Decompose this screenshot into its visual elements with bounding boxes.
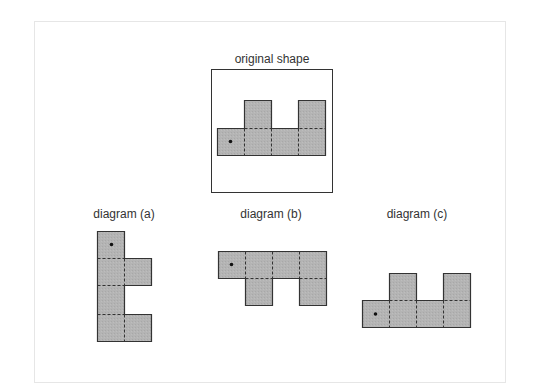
reference-dot-icon [374,312,378,316]
diagram-b-label: diagram (b) [240,207,301,221]
diagram-a-label: diagram (a) [93,207,154,221]
original-shape [218,101,326,156]
original-shape-label: original shape [235,52,310,66]
reference-dot-icon [230,263,234,267]
shape-diagram: original shape diagram (a) diagram (b) d… [0,0,533,390]
diagram-a-shape [98,232,152,342]
reference-dot-icon [229,140,233,144]
diagram-c-shape [363,274,471,328]
diagram-c-label: diagram (c) [387,207,448,221]
reference-dot-icon [110,243,114,247]
diagram-b-shape [219,252,327,306]
